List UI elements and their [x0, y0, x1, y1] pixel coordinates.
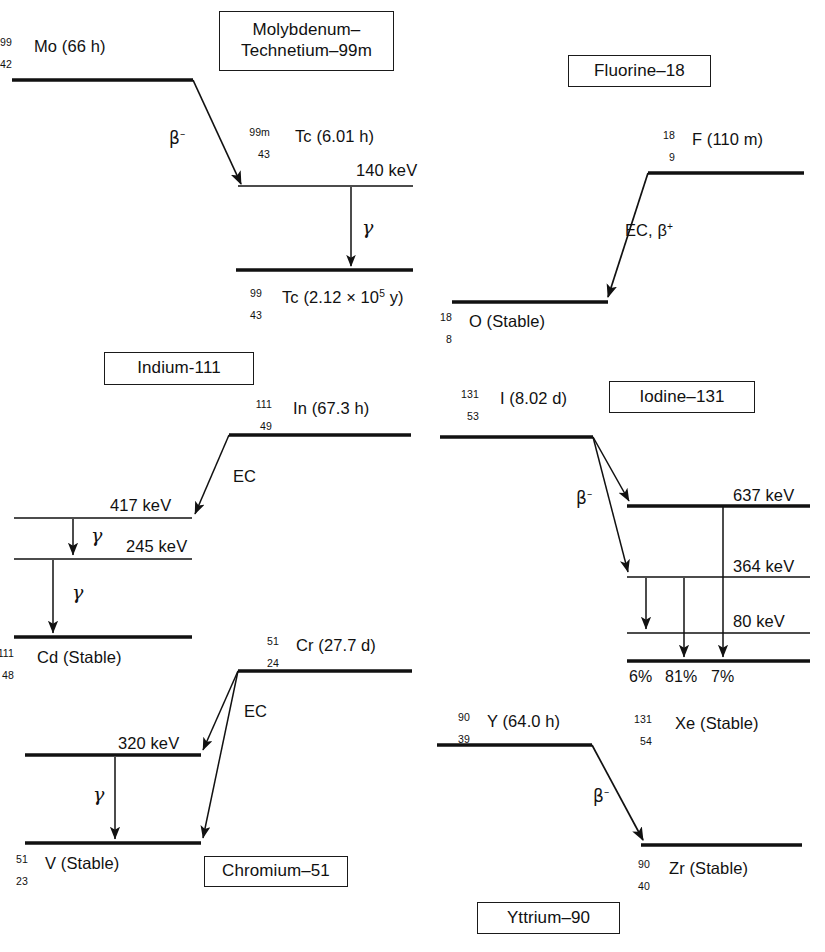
transition-arrow-ec-cr51-320	[203, 671, 238, 750]
transition-arrow-ec-cr51-ground	[203, 671, 238, 838]
nuclide-text-f18: F (110 m)	[692, 130, 763, 148]
nuclide-text-in111: In (67.3 h)	[293, 399, 369, 417]
label-transition-ec-in111: EC	[233, 468, 256, 485]
label-branch-7pct: 7%	[711, 669, 734, 685]
label-transition-gamma-cr51: γ	[93, 785, 104, 804]
label-energy-637kev: 637 keV	[733, 487, 794, 504]
label-branch-6pct: 6%	[629, 669, 652, 685]
label-nuclide-tc99: 99 43 Tc (2.12 × 105 y)	[262, 289, 404, 306]
label-nuclide-i131: 131 53 I (8.02 d)	[479, 390, 567, 407]
label-transition-beta-minus-mo99: β–	[169, 130, 185, 147]
label-transition-ec-beta-plus-f18: EC, β+	[625, 222, 673, 239]
label-energy-245kev: 245 keV	[126, 538, 187, 555]
panel-chromium-51-lines	[25, 671, 412, 843]
label-nuclide-y90: 90 39 Y (64.0 h)	[470, 713, 560, 730]
label-nuclide-mo99: 99 42 Mo (66 h)	[12, 38, 106, 55]
nuclide-text-cr51: Cr (27.7 d)	[296, 636, 376, 654]
nuclide-text-xe131: Xe (Stable)	[675, 714, 759, 732]
panel-indium-111-lines	[14, 435, 411, 637]
label-transition-beta-minus-y90: β–	[593, 788, 609, 805]
label-nuclide-cd111: 111 48 Cd (Stable)	[14, 649, 122, 666]
nuclide-text-zr90: Zr (Stable)	[669, 859, 748, 877]
label-transition-gamma1-in111: γ	[91, 526, 102, 545]
nuclide-text-tc99m: Tc (6.01 h)	[295, 127, 374, 145]
nuclide-text-y90: Y (64.0 h)	[487, 712, 560, 730]
label-transition-beta-minus-i131: β–	[576, 490, 592, 507]
label-energy-140kev: 140 keV	[356, 162, 417, 179]
title-box-fluorine-18: Fluorine–18	[568, 55, 711, 87]
label-nuclide-o18: 18 8 O (Stable)	[452, 313, 545, 330]
title-box-molybdenum-technetium: Molybdenum– Technetium–99m	[219, 11, 394, 71]
transition-arrow-beta-minus-i131-637	[593, 437, 629, 501]
nuclide-text-cd111: Cd (Stable)	[37, 648, 122, 666]
panel-yttrium-90-lines	[437, 745, 802, 845]
nuclide-text-v51: V (Stable)	[45, 854, 119, 872]
label-nuclide-v51: 51 23 V (Stable)	[28, 855, 119, 872]
label-nuclide-xe131: 131 54 Xe (Stable)	[652, 715, 759, 732]
label-nuclide-cr51: 51 24 Cr (27.7 d)	[279, 637, 376, 654]
label-transition-gamma-tc99m: γ	[362, 218, 373, 237]
label-energy-80kev: 80 keV	[733, 613, 785, 630]
transition-arrow-beta-minus-mo99	[193, 80, 241, 184]
label-nuclide-zr90: 90 40 Zr (Stable)	[650, 860, 748, 877]
label-energy-320kev: 320 keV	[118, 735, 179, 752]
label-nuclide-in111: 111 49 In (67.3 h)	[272, 400, 369, 417]
nuclide-text-i131: I (8.02 d)	[500, 389, 567, 407]
label-branch-81pct: 81%	[665, 669, 697, 685]
nuclide-text-o18: O (Stable)	[469, 312, 545, 330]
nuclide-text-tc99: Tc (2.12 × 10	[282, 288, 379, 306]
label-transition-gamma2-in111: γ	[72, 583, 83, 602]
title-box-chromium-51: Chromium–51	[204, 856, 348, 887]
label-nuclide-f18: 18 9 F (110 m)	[675, 131, 763, 148]
transition-arrow-beta-minus-i131-364	[593, 437, 628, 572]
decay-scheme-figure: Molybdenum– Technetium–99m Fluorine–18 I…	[0, 0, 825, 952]
label-energy-417kev: 417 keV	[110, 497, 171, 514]
title-box-iodine-131: Iodine–131	[609, 381, 755, 413]
nuclide-text-mo99: Mo (66 h)	[34, 37, 106, 55]
label-energy-364kev: 364 keV	[733, 558, 794, 575]
title-box-indium-111: Indium-111	[104, 352, 254, 385]
label-nuclide-tc99m: 99m 43 Tc (6.01 h)	[270, 128, 374, 145]
label-transition-ec-cr51: EC	[244, 703, 267, 720]
title-box-yttrium-90: Yttrium–90	[477, 902, 620, 934]
transition-arrow-ec-in111	[195, 435, 229, 514]
panel-molybdenum-technetium-lines	[12, 80, 413, 270]
nuclide-text-tc99-tail: y)	[385, 288, 404, 306]
